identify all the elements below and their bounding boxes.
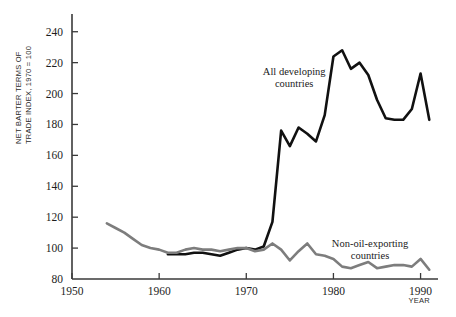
y-tick-label: 100 [46,242,64,254]
y-tick-label: 200 [46,88,64,100]
x-tick-label: 1980 [322,285,345,297]
y-tick-label: 180 [46,118,64,130]
chart-figure: NET BARTER TERMS OF TRADE INDEX, 1970 = … [0,0,456,317]
x-tick-label: 1960 [148,285,171,297]
x-tick-label: 1970 [235,285,258,297]
x-axis-title: YEAR [408,296,430,305]
y-tick-label: 80 [52,273,64,285]
y-tick-label: 120 [46,211,64,223]
y-tick-label: 160 [46,149,64,161]
y-tick-label: 220 [46,57,64,69]
x-tick-label: 1950 [61,285,84,297]
series-label-1: countries [351,250,390,261]
series-label-1: Non-oil-exporting [332,238,409,249]
series-annotations: All developingcountriesNon-oil-exporting… [263,66,409,261]
y-axis-ticks: 80100120140160180200220240 [46,26,78,285]
chart-plot-area: 80100120140160180200220240 1950196019701… [0,0,456,317]
y-tick-label: 240 [46,26,64,38]
series-label-0: All developing [263,66,326,77]
x-axis-ticks: 19501960197019801990 [61,273,433,297]
series-label-0: countries [275,78,314,89]
y-tick-label: 140 [46,180,64,192]
